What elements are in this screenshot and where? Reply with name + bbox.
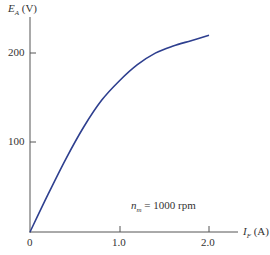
x-tick-0: 0 (27, 236, 33, 248)
plot-area (0, 0, 268, 255)
x-axis-label: IF (A) (243, 225, 269, 240)
x-tick-1: 1.0 (112, 236, 126, 248)
y-axis-label: EA (V) (8, 2, 37, 17)
speed-annotation: nm = 1000 rpm (131, 199, 196, 214)
y-tick-200: 200 (8, 46, 25, 58)
y-tick-100: 100 (8, 135, 25, 147)
chart: EA (V) 200 100 0 1.0 2.0 IF (A) nm = 100… (0, 0, 268, 255)
x-tick-2: 2.0 (201, 236, 215, 248)
